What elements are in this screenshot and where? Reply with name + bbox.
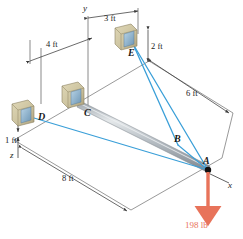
point-label-A: A: [203, 156, 210, 166]
point-label-C: C: [84, 108, 91, 118]
dimension-4ft: 4 ft: [46, 40, 58, 49]
axis-label-x: x: [228, 181, 232, 190]
axis-label-y: y: [83, 4, 87, 13]
dimension-2ft: 2 ft: [151, 42, 163, 51]
bracket-D: [12, 100, 34, 126]
dimension-3ft: 3 ft: [104, 14, 116, 23]
dimension-8ft: 8 ft: [62, 174, 74, 183]
dimension-1ft: 1 ft: [5, 136, 17, 145]
cables: [34, 44, 208, 170]
point-label-E: E: [128, 48, 135, 58]
reference-plane: [14, 61, 233, 210]
cable-EB: [133, 44, 178, 145]
bracket-C: [62, 82, 84, 108]
dimension-6ft: 6 ft: [186, 89, 198, 98]
axis-label-z: z: [10, 151, 14, 160]
point-label-D: D: [38, 112, 45, 122]
statics-figure: y x z 3 ft 4 ft 2 ft 6 ft 1 ft 8 ft D C …: [0, 0, 243, 239]
point-label-B: B: [174, 134, 181, 144]
force-magnitude-label: 198 lb: [185, 221, 208, 230]
figure-canvas: [0, 0, 243, 239]
